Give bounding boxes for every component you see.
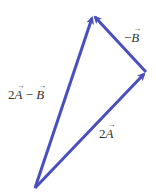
vector-b-symbol: B — [131, 31, 139, 44]
label-2a-minus-b: 2A − B — [8, 88, 44, 101]
vector-a-symbol: A — [106, 127, 114, 140]
vector-resultant-arrow — [35, 18, 92, 188]
operator: − — [22, 87, 36, 102]
vector-a-symbol: A — [15, 88, 23, 101]
vector-2a-arrow — [35, 74, 144, 188]
label-neg-b: −B — [124, 31, 139, 44]
sign: − — [124, 30, 131, 45]
vector-b-symbol: B — [36, 88, 44, 101]
label-2a: 2A — [99, 127, 113, 140]
